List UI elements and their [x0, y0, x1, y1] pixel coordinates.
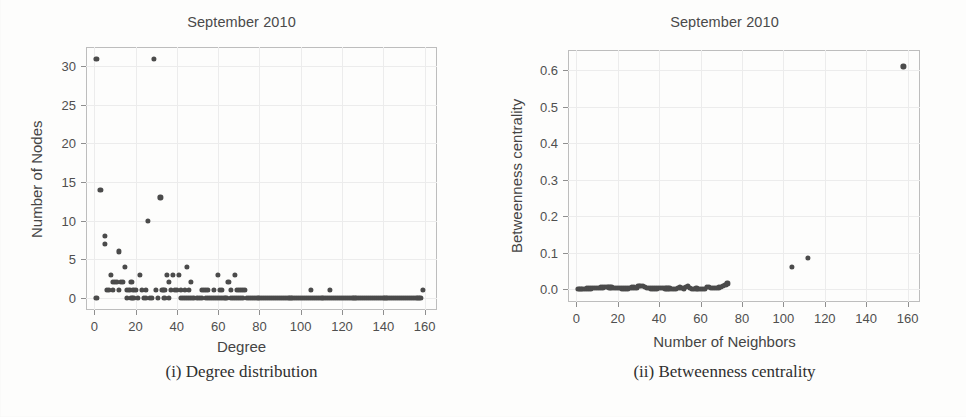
- y-axis-tick: [81, 182, 86, 183]
- x-axis-tick-label: 60: [211, 319, 225, 334]
- panel-betweenness-centrality: September 2010 0204060801001201401600.00…: [483, 0, 966, 417]
- plot-frame-right: [568, 50, 920, 302]
- gridline-vertical: [218, 47, 219, 310]
- y-axis-tick-label: 0.0: [508, 282, 558, 297]
- gridline-horizontal: [568, 143, 920, 144]
- x-axis-tick: [259, 310, 260, 315]
- x-axis-tick: [866, 302, 867, 307]
- gridline-horizontal: [86, 143, 437, 144]
- x-axis-tick-label: 160: [414, 319, 436, 334]
- panel-degree-distribution: September 2010 0204060801001201401600510…: [0, 0, 483, 417]
- gridline-vertical: [342, 47, 343, 310]
- x-axis-tick: [825, 302, 826, 307]
- x-axis-tick-label: 0: [91, 319, 98, 334]
- y-axis-tick-label: 30: [26, 59, 76, 74]
- x-axis-tick: [618, 302, 619, 307]
- x-axis-tick: [383, 310, 384, 315]
- y-axis-tick: [81, 105, 86, 106]
- gridline-vertical: [94, 47, 95, 310]
- gridline-vertical: [136, 47, 137, 310]
- y-axis-tick: [81, 143, 86, 144]
- gridline-horizontal: [568, 107, 920, 108]
- x-axis-tick-label: 20: [610, 311, 624, 326]
- x-axis-tick: [659, 302, 660, 307]
- subfigure-caption-left: (i) Degree distribution: [0, 362, 483, 382]
- x-axis-tick: [94, 310, 95, 315]
- subfigure-caption-right: (ii) Betweenness centrality: [483, 362, 966, 382]
- gridline-horizontal: [568, 216, 920, 217]
- gridline-vertical: [866, 50, 867, 302]
- gridline-vertical: [742, 50, 743, 302]
- figure-page: September 2010 0204060801001201401600510…: [0, 0, 966, 417]
- plot-area-degree-distribution: 020406080100120140160051015202530: [86, 47, 437, 310]
- y-axis-tick-label: 5: [26, 252, 76, 267]
- y-axis-tick-label: 25: [26, 97, 76, 112]
- y-axis-tick: [563, 70, 568, 71]
- gridline-horizontal: [568, 253, 920, 254]
- x-axis-tick-label: 40: [652, 311, 666, 326]
- y-axis-tick: [563, 107, 568, 108]
- x-axis-tick: [908, 302, 909, 307]
- x-axis-title-right: Number of Neighbors: [483, 333, 966, 350]
- x-axis-tick: [177, 310, 178, 315]
- x-axis-tick-label: 120: [814, 311, 836, 326]
- gridline-vertical: [383, 47, 384, 310]
- gridline-vertical: [783, 50, 784, 302]
- y-axis-tick: [563, 253, 568, 254]
- y-axis-tick: [563, 289, 568, 290]
- x-axis-tick: [576, 302, 577, 307]
- gridline-vertical: [425, 47, 426, 310]
- gridline-vertical: [618, 50, 619, 302]
- x-axis-tick-label: 140: [372, 319, 394, 334]
- x-axis-tick-label: 120: [331, 319, 353, 334]
- gridline-vertical: [825, 50, 826, 302]
- y-axis-tick: [81, 221, 86, 222]
- gridline-vertical: [659, 50, 660, 302]
- plot-frame-left: [86, 47, 437, 310]
- gridline-horizontal: [86, 66, 437, 67]
- x-axis-title-left: Degree: [0, 338, 483, 355]
- y-axis-tick: [563, 180, 568, 181]
- x-axis-tick-label: 160: [897, 311, 919, 326]
- y-axis-tick: [563, 216, 568, 217]
- x-axis-tick: [742, 302, 743, 307]
- y-axis-tick: [563, 143, 568, 144]
- y-axis-tick-label: 0.6: [508, 63, 558, 78]
- gridline-vertical: [177, 47, 178, 310]
- gridline-vertical: [576, 50, 577, 302]
- x-axis-tick-label: 0: [573, 311, 580, 326]
- x-axis-tick-label: 20: [128, 319, 142, 334]
- x-axis-tick-label: 140: [855, 311, 877, 326]
- gridline-vertical: [908, 50, 909, 302]
- y-axis-tick-label: 0: [26, 290, 76, 305]
- x-axis-tick-label: 60: [693, 311, 707, 326]
- gridline-horizontal: [86, 105, 437, 106]
- x-axis-tick: [701, 302, 702, 307]
- gridline-horizontal: [86, 259, 437, 260]
- x-axis-tick: [783, 302, 784, 307]
- x-axis-tick-label: 40: [170, 319, 184, 334]
- gridline-horizontal: [568, 180, 920, 181]
- gridline-horizontal: [568, 70, 920, 71]
- gridline-horizontal: [86, 221, 437, 222]
- y-axis-title-left: Number of Nodes: [28, 120, 45, 238]
- x-axis-tick: [218, 310, 219, 315]
- plot-area-betweenness-centrality: 0204060801001201401600.00.10.20.30.40.50…: [568, 50, 920, 302]
- x-axis-tick: [342, 310, 343, 315]
- gridline-vertical: [259, 47, 260, 310]
- y-axis-tick: [81, 298, 86, 299]
- gridline-vertical: [301, 47, 302, 310]
- x-axis-tick-label: 80: [735, 311, 749, 326]
- gridline-horizontal: [86, 182, 437, 183]
- x-axis-tick: [425, 310, 426, 315]
- y-axis-tick: [81, 66, 86, 67]
- gridline-vertical: [701, 50, 702, 302]
- x-axis-tick: [136, 310, 137, 315]
- x-axis-tick-label: 100: [290, 319, 312, 334]
- x-axis-tick-label: 100: [772, 311, 794, 326]
- y-axis-title-right: Betweenness centrality: [508, 99, 525, 253]
- chart-title-left: September 2010: [0, 14, 483, 30]
- y-axis-tick: [81, 259, 86, 260]
- chart-title-right: September 2010: [483, 14, 966, 30]
- x-axis-tick-label: 80: [252, 319, 266, 334]
